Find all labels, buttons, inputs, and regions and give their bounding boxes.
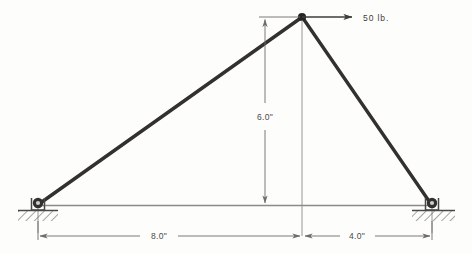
- right-support: [412, 198, 455, 233]
- truss-diagram-canvas: 50 lb. 6.0": [0, 0, 472, 254]
- right-span-dimension-group: 4.0": [305, 221, 432, 241]
- left-member: [39, 18, 302, 205]
- right-member: [303, 18, 432, 205]
- applied-load-group: 50 lb.: [302, 13, 389, 23]
- left-ground-hatch: [18, 211, 58, 221]
- load-label: 50 lb.: [363, 13, 389, 23]
- truss-members: [39, 18, 431, 205]
- height-dimension-label: 6.0": [257, 112, 273, 122]
- truss-diagram-figure: 50 lb. 6.0": [0, 0, 472, 254]
- left-span-dimension-label: 8.0": [151, 231, 167, 241]
- right-ground-hatch: [412, 211, 455, 221]
- right-span-dimension-label: 4.0": [349, 231, 365, 241]
- left-span-dimension-group: 8.0": [38, 221, 300, 241]
